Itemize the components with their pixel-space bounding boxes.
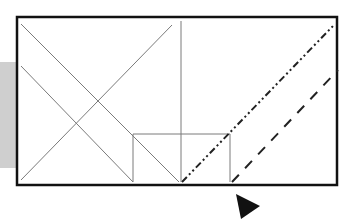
outer-frame <box>17 17 337 185</box>
diagram-canvas <box>0 0 346 223</box>
pointer-triangle-icon <box>236 194 260 219</box>
